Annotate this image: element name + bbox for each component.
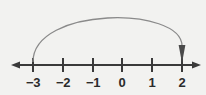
tick-label-neg1: −1 <box>80 76 106 90</box>
tick-label-neg3: −3 <box>20 76 46 90</box>
axis-right-arrowhead <box>192 62 201 69</box>
jump-arc-arrowhead-icon <box>179 45 186 63</box>
axis-left-arrowhead <box>11 62 20 69</box>
number-line-figure: −3 −2 −1 0 1 2 <box>0 0 206 95</box>
tick-label-0: 0 <box>109 76 135 90</box>
jump-arc <box>33 18 182 62</box>
tick-label-neg2: −2 <box>50 76 76 90</box>
tick-label-1: 1 <box>139 76 165 90</box>
tick-label-2: 2 <box>169 76 195 90</box>
